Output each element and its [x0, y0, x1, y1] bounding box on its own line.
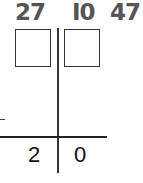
top-number-1: 27	[15, 0, 45, 26]
top-number-3: 47	[110, 0, 140, 26]
result-tens-digit: 2	[28, 142, 40, 168]
result-ones-digit: 0	[74, 142, 86, 168]
subtraction-line	[0, 136, 107, 138]
place-value-divider	[57, 28, 59, 173]
top-number-2: I0	[72, 0, 95, 26]
answer-box-ones[interactable]	[64, 29, 100, 67]
minus-sign-icon	[0, 119, 5, 120]
answer-box-tens[interactable]	[15, 29, 51, 67]
